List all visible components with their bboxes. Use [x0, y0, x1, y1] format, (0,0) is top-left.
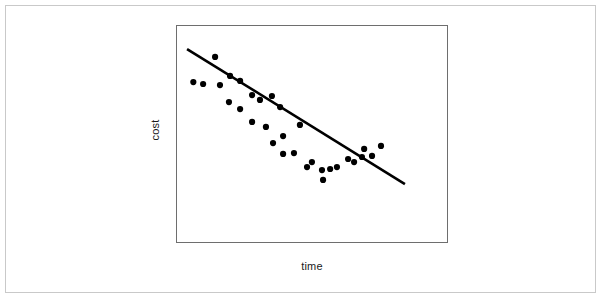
- scatter-point: [291, 150, 297, 156]
- scatter-point: [369, 153, 375, 159]
- scatter-point: [334, 164, 340, 170]
- scatter-point: [309, 159, 315, 165]
- scatter-point: [226, 99, 232, 105]
- scatter-point: [237, 106, 243, 112]
- scatter-point: [327, 166, 333, 172]
- scatter-point: [280, 133, 286, 139]
- y-axis-label: cost: [145, 100, 165, 160]
- scatter-point: [200, 81, 206, 87]
- plot-area: [176, 25, 448, 243]
- scatter-point: [269, 93, 275, 99]
- x-axis-label: time: [176, 260, 448, 272]
- scatter-points-layer: [190, 54, 384, 183]
- scatter-point: [361, 146, 367, 152]
- trend-line-layer: [187, 49, 405, 184]
- scatter-point: [378, 143, 384, 149]
- scatter-point: [249, 92, 255, 98]
- plot-canvas: [177, 26, 449, 244]
- scatter-point: [212, 54, 218, 60]
- scatter-figure: cost time: [0, 0, 602, 300]
- scatter-point: [280, 151, 286, 157]
- scatter-point: [319, 167, 325, 173]
- scatter-point: [320, 177, 326, 183]
- scatter-point: [217, 82, 223, 88]
- scatter-point: [263, 124, 269, 130]
- scatter-point: [297, 122, 303, 128]
- scatter-point: [351, 159, 357, 165]
- scatter-point: [257, 97, 263, 103]
- scatter-point: [270, 140, 276, 146]
- trend-line: [187, 49, 405, 184]
- scatter-point: [304, 164, 310, 170]
- scatter-point: [345, 156, 351, 162]
- scatter-point: [190, 79, 196, 85]
- scatter-point: [249, 119, 255, 125]
